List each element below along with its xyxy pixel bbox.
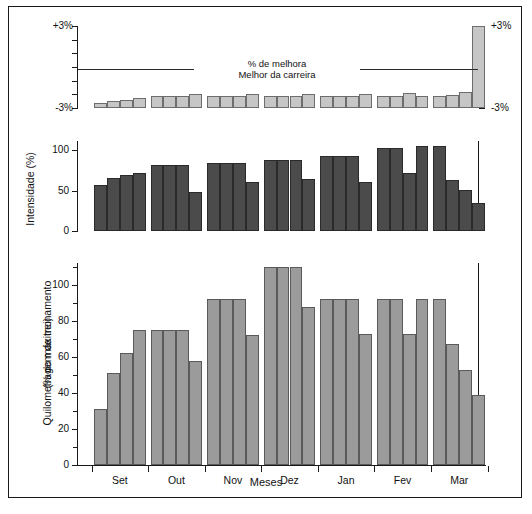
- x-axis-title: Meses: [9, 477, 523, 488]
- bar-intensity: [207, 163, 220, 231]
- bar-intensity: [346, 156, 359, 231]
- bar-percent-improvement: [302, 94, 315, 108]
- bar-intensity: [403, 173, 416, 231]
- bar-percent-improvement: [94, 103, 107, 108]
- bar-mileage: [264, 267, 277, 465]
- bar-intensity: [246, 182, 259, 231]
- bar-mileage: [189, 361, 202, 465]
- bar-intensity: [446, 180, 459, 231]
- bar-mileage: [151, 330, 164, 465]
- bar-percent-improvement: [377, 96, 390, 108]
- panel-bottom-bars: [9, 237, 523, 499]
- bar-intensity: [133, 173, 146, 231]
- annotation-line-2: Melhor da carreira: [197, 69, 357, 80]
- bar-percent-improvement: [416, 96, 429, 108]
- bar-intensity: [359, 182, 372, 231]
- x-axis-group-tick: [488, 466, 489, 472]
- bar-mileage: [220, 299, 233, 465]
- bar-intensity: [189, 192, 202, 231]
- bar-intensity: [416, 146, 429, 231]
- bar-percent-improvement: [320, 96, 333, 108]
- bar-percent-improvement: [459, 92, 472, 108]
- bar-mileage: [277, 267, 290, 465]
- bar-mileage: [163, 330, 176, 465]
- bar-intensity: [320, 156, 333, 231]
- bar-percent-improvement: [163, 96, 176, 108]
- chart-panel-intensity: 050100 Intensidade (%): [9, 125, 523, 237]
- bar-mileage: [333, 299, 346, 465]
- bar-intensity: [94, 185, 107, 231]
- bar-mileage: [176, 330, 189, 465]
- bar-percent-improvement: [446, 95, 459, 108]
- bar-mileage: [320, 299, 333, 465]
- ytick-label-top-left-plus3: +3%: [29, 21, 73, 31]
- chart-panel-percent-improvement: % de melhora Melhor da carreira +3% -3% …: [9, 7, 523, 125]
- bar-mileage: [416, 299, 429, 465]
- bar-percent-improvement: [264, 96, 277, 108]
- figure-panel-container: % de melhora Melhor da carreira +3% -3% …: [8, 6, 522, 498]
- bar-intensity: [459, 190, 472, 231]
- bar-intensity: [433, 146, 446, 231]
- x-axis-group-tick: [261, 466, 262, 472]
- bar-mileage: [446, 344, 459, 465]
- bar-percent-improvement: [472, 26, 485, 108]
- ytick-label-top-left-minus3: -3%: [29, 103, 73, 113]
- bar-percent-improvement: [133, 98, 146, 108]
- bar-mileage: [94, 409, 107, 465]
- bar-intensity: [333, 156, 346, 231]
- panel-bottom-ylabel-line2: (% do máximo): [41, 265, 53, 441]
- bar-intensity: [290, 160, 303, 231]
- bar-percent-improvement: [290, 96, 303, 108]
- ytick-label-top-right-plus3: +3%: [491, 21, 532, 31]
- bar-percent-improvement: [220, 96, 233, 108]
- bar-intensity: [151, 165, 164, 231]
- bar-mileage: [246, 335, 259, 465]
- bar-intensity: [472, 203, 485, 231]
- x-axis-group-tick: [148, 466, 149, 472]
- bar-intensity: [220, 163, 233, 231]
- bar-percent-improvement: [151, 96, 164, 108]
- reference-line-left: [78, 69, 198, 70]
- x-axis-group-tick: [431, 466, 432, 472]
- panel-middle-ylabel: Intensidade (%): [24, 134, 36, 244]
- bar-intensity: [390, 148, 403, 231]
- bar-mileage: [377, 299, 390, 465]
- bar-mileage: [403, 334, 416, 465]
- x-axis-group-tick: [92, 466, 93, 472]
- bar-mileage: [433, 299, 446, 465]
- bar-mileage: [459, 370, 472, 465]
- bar-percent-improvement: [277, 96, 290, 108]
- bar-intensity: [107, 178, 120, 231]
- bar-intensity: [233, 163, 246, 231]
- x-axis-group-tick: [318, 466, 319, 472]
- bar-intensity: [377, 148, 390, 231]
- chart-panel-mileage: 020406080100 Quilometragem de treinament…: [9, 237, 523, 499]
- bar-intensity: [264, 160, 277, 231]
- bar-mileage: [390, 299, 403, 465]
- bar-intensity: [120, 175, 133, 231]
- bar-percent-improvement: [246, 94, 259, 108]
- bar-percent-improvement: [189, 94, 202, 108]
- bar-mileage: [302, 307, 315, 465]
- bar-percent-improvement: [390, 96, 403, 108]
- bar-intensity: [163, 165, 176, 231]
- bar-percent-improvement: [433, 96, 446, 108]
- panel-top-annotation: % de melhora Melhor da carreira: [194, 58, 360, 80]
- ytick-label-top-right-minus3: -3%: [491, 103, 532, 113]
- bar-mileage: [133, 330, 146, 465]
- bar-mileage: [207, 299, 220, 465]
- bar-percent-improvement: [346, 96, 359, 108]
- x-axis-group-tick: [374, 466, 375, 472]
- bar-mileage: [346, 299, 359, 465]
- bar-mileage: [233, 299, 246, 465]
- bar-mileage: [107, 373, 120, 465]
- bar-intensity: [176, 165, 189, 231]
- reference-line-right: [347, 69, 478, 70]
- bar-percent-improvement: [207, 96, 220, 108]
- bar-percent-improvement: [120, 100, 133, 108]
- bar-percent-improvement: [107, 101, 120, 108]
- bar-percent-improvement: [176, 96, 189, 108]
- bar-percent-improvement: [333, 96, 346, 108]
- annotation-line-1: % de melhora: [197, 58, 357, 69]
- panel-middle-bars: [9, 125, 523, 237]
